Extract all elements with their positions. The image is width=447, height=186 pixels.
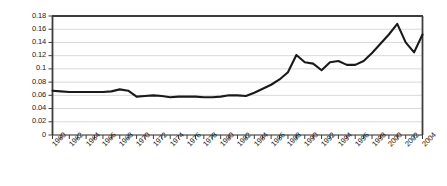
y-tick-label: 0.16 xyxy=(16,25,46,33)
y-tick-label: 0.08 xyxy=(16,78,46,86)
y-tick-label: 0.18 xyxy=(16,12,46,20)
line-chart: 00.020.040.060.080.10.120.140.160.18 196… xyxy=(0,0,447,186)
y-tick-label: 0 xyxy=(16,131,46,139)
y-tick-label: 0.02 xyxy=(16,117,46,125)
y-tick-label: 0.14 xyxy=(16,38,46,46)
y-tick-label: 0.12 xyxy=(16,51,46,59)
y-tick-label: 0.06 xyxy=(16,91,46,99)
plot-area-background xyxy=(52,16,423,135)
y-tick-label: 0.1 xyxy=(16,64,46,72)
chart-canvas xyxy=(0,0,447,186)
y-tick-label: 0.04 xyxy=(16,104,46,112)
